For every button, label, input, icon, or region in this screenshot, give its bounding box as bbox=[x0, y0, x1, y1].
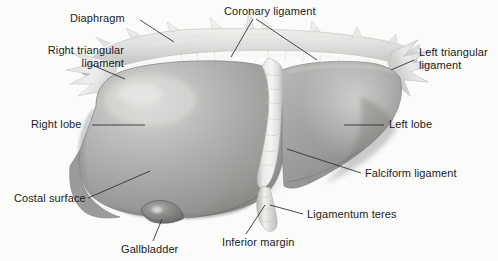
label-diaphragm: Diaphragm bbox=[70, 12, 125, 25]
label-ligamentum-teres: Ligamentum teres bbox=[307, 208, 397, 221]
label-right-triangular-ligament: Right triangular ligament bbox=[4, 44, 124, 70]
label-costal-surface: Costal surface bbox=[14, 192, 86, 205]
liver-anatomy-figure: Diaphragm Coronary ligament Right triang… bbox=[0, 0, 498, 261]
label-coronary-ligament: Coronary ligament bbox=[224, 5, 316, 18]
label-inferior-margin: Inferior margin bbox=[222, 236, 294, 249]
label-falciform-ligament: Falciform ligament bbox=[365, 167, 457, 180]
label-gallbladder: Gallbladder bbox=[121, 243, 178, 256]
label-left-triangular-ligament: Left triangular ligament bbox=[419, 46, 488, 72]
label-right-lobe: Right lobe bbox=[31, 118, 82, 131]
ligamentum-teres-cord bbox=[257, 186, 277, 231]
label-left-lobe: Left lobe bbox=[389, 118, 432, 131]
